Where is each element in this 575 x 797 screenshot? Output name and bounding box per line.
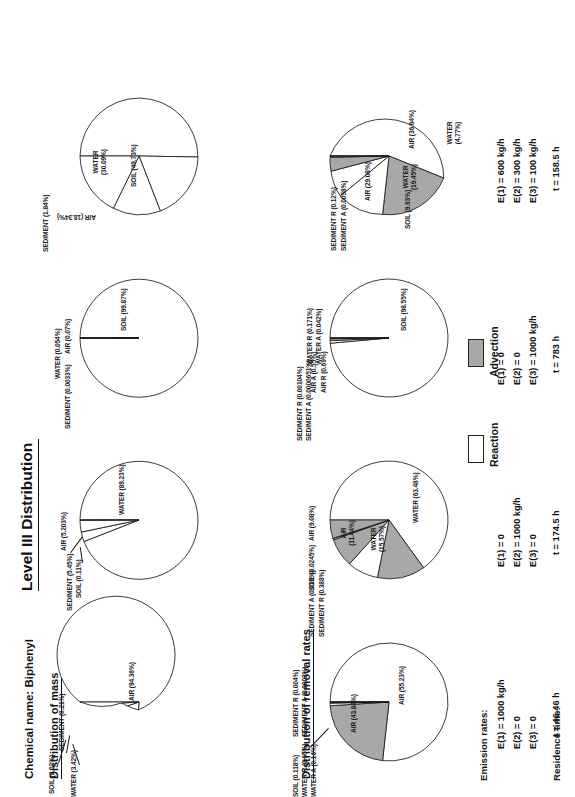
emission-col3-e3: E(3) = 1000 kg/h [528, 315, 538, 385]
emission-col2-e3: E(3) = 0 [528, 534, 538, 567]
emission-col2-e1: E(1) = 0 [496, 534, 506, 567]
legend-label-reaction: Reaction [488, 423, 500, 467]
pie-slice-label-sediment-reaction: SEDIMENT R (0.388%) [318, 570, 325, 637]
emission-rates-heading: Emission rates: [478, 710, 489, 781]
pie-slice-label-water-advection: WATER A (0.042%) [315, 309, 322, 365]
pie-slice-label-water: WATER (0.054%) [54, 328, 61, 379]
pie-slice-label-sediment: SEDIMENT (0.0033%) [64, 364, 71, 429]
chemical-name: Chemical name: Biphenyl [23, 639, 35, 779]
emission-col3-e2: E(2) = 0 [512, 352, 522, 385]
pie-slice-label-sediment-advection: SEDIMENT A (0.0058%) [340, 181, 347, 251]
pie-slice-label-soil: SOIL (0.118%) [292, 755, 299, 797]
pie-slice-label-sediment-advection: SEDIMENT A (0.0000651%) [305, 360, 312, 441]
pie-slice-label-sediment-reaction: SEDIMENT R (0.12%) [330, 187, 337, 251]
emission-col1-e3: E(3) = 0 [528, 716, 538, 749]
pie-slice-label-sediment-advection: SEDIMENT A (0.0002%) [301, 667, 308, 737]
pie-slice-label-water-reaction: WATER R (0.171%) [306, 308, 313, 365]
pie-slice-label-air-advection: AIR (9.08%) [308, 506, 315, 541]
page-title: Level III Distribution [18, 443, 36, 591]
residence-time-col2: t = 174.5 h [551, 510, 561, 555]
pie-slice-label-sediment-advection: SEDIMENT A (0.019%) [308, 570, 315, 637]
emission-col1-e2: E(2) = 0 [512, 716, 522, 749]
pie-slice-label-water-reaction: WATER (63.48%) [412, 472, 419, 523]
pie-slice-label-soil: SOIL (9.93%) [404, 190, 411, 229]
page-stage: Level III Distribution Chemical name: Bi… [0, 0, 575, 797]
pie-slice-label-water-advection: WATER A (0.16%) [310, 744, 317, 797]
pie-chart-removal-col4 [330, 97, 448, 215]
pie-slice-label-soil: SOIL (99.87%) [120, 288, 127, 331]
scanned-page: Level III Distribution Chemical name: Bi… [0, 0, 575, 797]
pie-slice-label-water-reaction: WATER R (0.65%) [301, 744, 308, 797]
legend-label-advection: Advection [488, 326, 500, 377]
emission-col4-e2: E(2) = 300 kg/h [512, 138, 522, 203]
pie-slice-label-air-advection: AIR (43.84%) [350, 694, 357, 733]
emission-col4-e1: E(1) = 600 kg/h [496, 138, 506, 203]
page-title-underline [38, 439, 39, 591]
pie-slice-label-water-advection: WATER(4.77%) [446, 113, 461, 153]
pie-slice-label-air: AIR (18.34%) [57, 214, 96, 221]
pie-chart-removal-col3 [330, 279, 448, 397]
residence-time-col1: t = 46.46 h [551, 692, 561, 737]
emission-col2-e2: E(2) = 1000 kg/h [512, 497, 522, 567]
pie-slice-label-water-advection: WATER(15.57%) [370, 519, 385, 559]
emission-col4-e3: E(3) = 100 kg/h [528, 138, 538, 203]
pie-chart-removal-col1 [330, 643, 448, 761]
residence-time-col4: t = 158.5 h [551, 146, 561, 191]
pie-slice-label-soil: SOIL (0.11%) [75, 559, 82, 598]
pie-slice-label-water: WATER (89.23%) [118, 464, 125, 515]
legend-swatch-reaction [468, 435, 484, 463]
pie-slice-label-sediment-reaction: SEDIMENT R (0.004%) [292, 670, 299, 737]
pie-slice-label-air-reaction: AIR(11.44%) [340, 517, 355, 549]
pie-chart-mass-col3 [80, 279, 198, 397]
pie-chart-mass-col1 [80, 643, 198, 761]
pie-slice-label-air: AIR (0.07%) [64, 319, 71, 354]
pie-slice-label-air-reaction: AIR (55.23%) [398, 666, 405, 705]
pie-slice-label-sediment-reaction: SEDIMENT R (0.00104%) [296, 367, 303, 442]
pie-slice-label-air: AIR (5.203%) [60, 512, 67, 551]
pie-slice-label-water: WATER(30.09%) [92, 141, 107, 183]
pie-slice-label-air-reaction: AIR (36.64%) [408, 110, 415, 149]
pie-slice-label-sediment: SEDIMENT (1.84%) [42, 195, 49, 252]
emission-col1-e1: E(1) = 1000 kg/h [496, 679, 506, 749]
pie-slice-label-air: AIR (94.36%) [128, 662, 135, 701]
pie-slice-label-sediment: SEDIMENT (5.45%) [66, 554, 73, 611]
pie-slice-label-soil: SOIL (49.73%) [130, 144, 137, 187]
pie-chart-mass-col2 [80, 461, 198, 579]
pie-slice-label-soil: SOIL (98.55%) [400, 288, 407, 331]
legend-swatch-advection [468, 339, 484, 367]
pie-slice-label-air-advection: AIR (29.08%) [364, 162, 371, 201]
residence-time-col3: t = 783 h [551, 336, 561, 373]
pie-slice-label-soil: SOIL (2.02%) [48, 755, 55, 794]
